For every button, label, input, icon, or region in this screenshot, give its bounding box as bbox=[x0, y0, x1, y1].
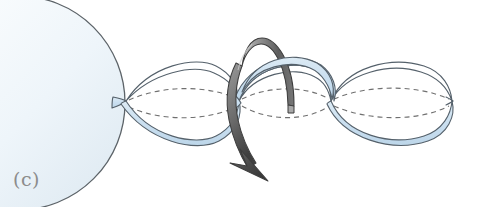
panel-label: (c) bbox=[13, 168, 40, 190]
helix-rotation-diagram bbox=[0, 0, 483, 207]
figure-panel-c: (c) bbox=[0, 0, 483, 207]
